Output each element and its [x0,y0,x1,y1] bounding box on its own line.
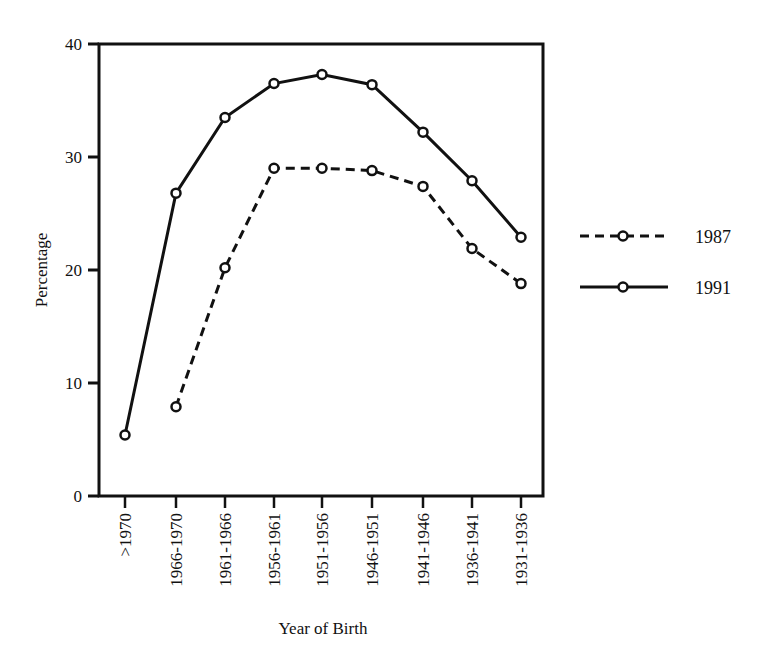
legend-marker [619,232,628,241]
y-tick-label: 10 [65,374,82,393]
data-point-marker [517,233,526,242]
series-line [125,75,521,435]
x-tick-label: 1961-1966 [216,513,235,587]
x-tick-label: 1956-1961 [265,513,284,587]
x-tick-label: 1966-1970 [167,513,186,587]
data-point-marker [172,402,181,411]
data-point-marker [517,279,526,288]
data-point-marker [318,70,327,79]
x-tick-label: 1936-1941 [463,513,482,587]
y-tick-label: 30 [65,148,82,167]
data-point-marker [318,164,327,173]
series-line [176,168,521,406]
data-point-marker [368,80,377,89]
data-point-marker [121,430,130,439]
data-point-marker [419,182,428,191]
x-tick-label: 1941-1946 [414,513,433,587]
x-tick-label: 1951-1956 [313,513,332,587]
data-point-marker [468,244,477,253]
legend: 19871991 [580,227,731,298]
series-1991 [121,70,526,439]
series-1987 [172,164,526,411]
data-point-marker [270,164,279,173]
legend-item-1987: 1987 [580,227,731,247]
data-point-marker [368,166,377,175]
x-tick-label: 1931-1936 [512,513,531,587]
plot-frame [99,44,543,496]
data-point-marker [419,128,428,137]
x-tick-label: 1946-1951 [363,513,382,587]
data-point-marker [270,79,279,88]
series-group [121,70,526,439]
x-axis-title: Year of Birth [279,619,368,638]
legend-label: 1991 [695,278,731,298]
data-point-marker [221,263,230,272]
x-tick-label: >1970 [116,513,135,557]
data-point-marker [172,189,181,198]
legend-marker [619,283,628,292]
x-axis: >19701966-19701961-19661956-19611951-195… [116,496,531,587]
y-tick-label: 40 [65,35,82,54]
legend-label: 1987 [695,227,731,247]
y-tick-label: 20 [65,261,82,280]
line-chart: 010203040 >19701966-19701961-19661956-19… [0,0,767,655]
data-point-marker [468,176,477,185]
data-point-marker [221,113,230,122]
y-axis-title: Percentage [32,233,51,308]
y-axis: 010203040 [65,35,99,506]
y-tick-label: 0 [74,487,83,506]
legend-item-1991: 1991 [580,278,731,298]
